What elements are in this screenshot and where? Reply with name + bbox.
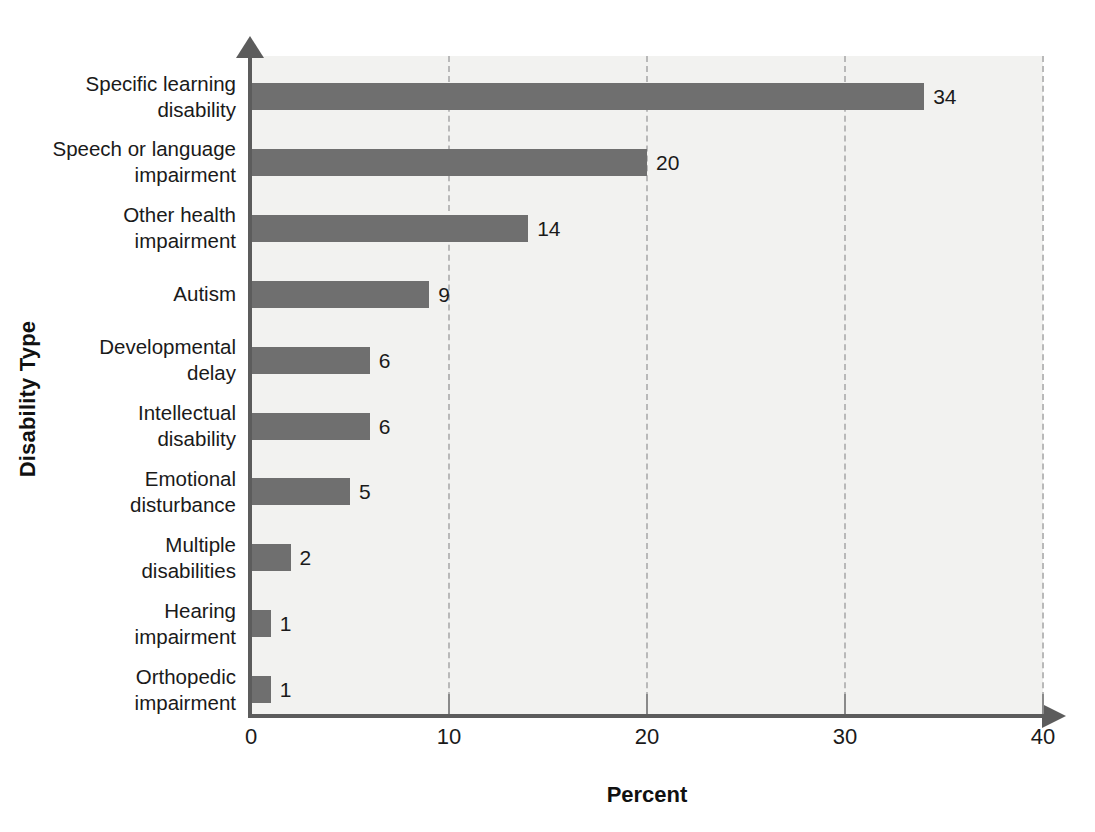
x-axis-tick-label: 20 bbox=[617, 724, 677, 750]
y-axis-label-line: impairment bbox=[40, 690, 236, 716]
y-axis-label-line: impairment bbox=[40, 162, 236, 188]
y-axis-label: Hearingimpairment bbox=[40, 598, 236, 650]
y-axis-label: Orthopedicimpairment bbox=[40, 664, 236, 716]
y-axis-title: Disability Type bbox=[15, 309, 41, 489]
y-axis-arrow-icon bbox=[236, 36, 264, 58]
y-axis-label-line: disability bbox=[40, 426, 236, 452]
y-axis-label: Autism bbox=[40, 281, 236, 307]
y-axis-label-line: Orthopedic bbox=[40, 664, 236, 690]
plot-area: 3420149665211 bbox=[251, 56, 1043, 718]
y-axis-label-line: Other health bbox=[40, 202, 236, 228]
x-axis-tick-label: 0 bbox=[221, 724, 281, 750]
y-axis-label-line: Specific learning bbox=[40, 71, 236, 97]
bar-value-label: 9 bbox=[438, 281, 450, 308]
bar bbox=[251, 281, 429, 308]
bar-chart: Disability Type Specific learningdisabil… bbox=[0, 0, 1095, 832]
bar-value-label: 14 bbox=[537, 215, 560, 242]
y-axis-label: Speech or languageimpairment bbox=[40, 136, 236, 188]
y-axis-label-line: disabilities bbox=[40, 558, 236, 584]
y-axis-label-line: Intellectual bbox=[40, 400, 236, 426]
bar bbox=[251, 478, 350, 505]
y-axis-label-line: Emotional bbox=[40, 466, 236, 492]
y-axis-label: Specific learningdisability bbox=[40, 71, 236, 123]
y-axis-label-line: impairment bbox=[40, 624, 236, 650]
y-axis-label: Intellectualdisability bbox=[40, 400, 236, 452]
bar-value-label: 20 bbox=[656, 149, 679, 176]
bar-value-label: 2 bbox=[300, 544, 312, 571]
x-axis-tick-label: 30 bbox=[815, 724, 875, 750]
y-axis-label-line: Developmental bbox=[40, 334, 236, 360]
bar bbox=[251, 83, 924, 110]
y-axis-label: Developmentaldelay bbox=[40, 334, 236, 386]
bar bbox=[251, 676, 271, 703]
bar-value-label: 1 bbox=[280, 610, 292, 637]
bar bbox=[251, 610, 271, 637]
x-axis-tick bbox=[844, 694, 846, 714]
x-axis-tick bbox=[448, 694, 450, 714]
y-axis-label: Other healthimpairment bbox=[40, 202, 236, 254]
y-axis-label-line: disability bbox=[40, 97, 236, 123]
y-axis-label-line: Speech or language bbox=[40, 136, 236, 162]
x-axis-tick-label: 10 bbox=[419, 724, 479, 750]
x-axis-tick-label: 40 bbox=[1013, 724, 1073, 750]
x-axis-line bbox=[248, 714, 1043, 718]
bar-value-label: 1 bbox=[280, 676, 292, 703]
y-axis-label-line: impairment bbox=[40, 228, 236, 254]
x-axis-tick bbox=[1042, 694, 1044, 714]
bar bbox=[251, 215, 528, 242]
y-axis-label-line: delay bbox=[40, 360, 236, 386]
y-axis-label-line: Autism bbox=[40, 281, 236, 307]
bar bbox=[251, 347, 370, 374]
y-axis-label-line: disturbance bbox=[40, 492, 236, 518]
bar-value-label: 34 bbox=[933, 83, 956, 110]
y-axis-category-labels: Specific learningdisabilitySpeech or lan… bbox=[40, 55, 236, 715]
gridline-30 bbox=[844, 56, 846, 718]
bar-value-label: 6 bbox=[379, 347, 391, 374]
bar-value-label: 5 bbox=[359, 478, 371, 505]
x-axis-title: Percent bbox=[251, 782, 1043, 808]
y-axis-label-line: Hearing bbox=[40, 598, 236, 624]
bar bbox=[251, 149, 647, 176]
gridline-40 bbox=[1042, 56, 1044, 718]
x-axis-tick bbox=[646, 694, 648, 714]
y-axis-line bbox=[248, 56, 252, 718]
y-axis-label-line: Multiple bbox=[40, 532, 236, 558]
y-axis-label: Emotionaldisturbance bbox=[40, 466, 236, 518]
y-axis-label: Multipledisabilities bbox=[40, 532, 236, 584]
bar-value-label: 6 bbox=[379, 413, 391, 440]
bar bbox=[251, 544, 291, 571]
bar bbox=[251, 413, 370, 440]
